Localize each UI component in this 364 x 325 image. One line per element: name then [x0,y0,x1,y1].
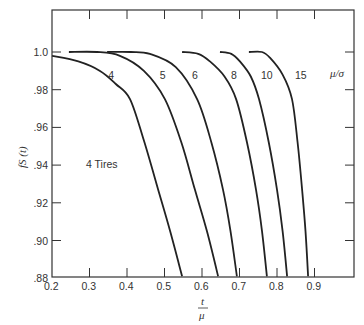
x-axis-label-denominator: μ [198,309,205,321]
curve-mu-sigma-15 [249,52,308,277]
x-tick-label: 0.8 [269,280,284,292]
x-axis-label-numerator: t [201,295,205,307]
x-axis-label: t μ [198,295,208,321]
curve-label-15: 15 [295,69,307,81]
x-tick-label: 0.6 [194,280,209,292]
y-tick-label: .92 [33,197,48,209]
curve-label-4: 4 [108,69,114,81]
y-tick-label: .94 [33,159,48,171]
curve-mu-sigma-6 [107,52,237,276]
curve-label-8: 8 [231,69,237,81]
y-axis-label: fS (t) [16,146,29,168]
x-tick-label: 0.4 [119,280,134,292]
annotation-4-tires: 4 Tires [86,158,118,170]
curve-label-6: 6 [192,69,198,81]
legend-title: μ/σ [329,67,345,79]
y-tick-label: .90 [33,235,48,247]
reliability-chart: 45681015 0.20.30.40.50.60.70.80.91.0.98.… [0,0,364,325]
labels: μ/σ 4 Tires t μ fS (t) [16,67,345,321]
y-tick-label: .96 [33,121,48,133]
curve-label-10: 10 [261,69,273,81]
x-tick-label: 0.3 [82,280,97,292]
x-tick-label: 0.9 [307,280,322,292]
y-tick-label: 1.0 [33,46,48,58]
y-tick-label: .88 [33,272,48,284]
curve-label-5: 5 [160,69,166,81]
y-tick-label: .98 [33,84,48,96]
x-tick-label: 0.7 [232,280,247,292]
x-tick-label: 0.5 [157,280,172,292]
plot-frame [52,10,354,277]
